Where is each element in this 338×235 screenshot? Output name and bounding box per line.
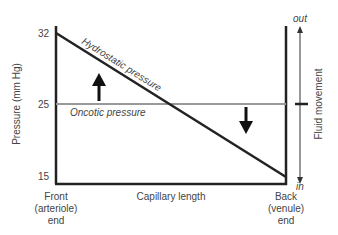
fluid-out-label: out [293,13,308,24]
back-label-line1: Back [275,191,298,202]
front-label-line1: Front [44,191,68,202]
back-label-line2: (venule) [268,203,304,214]
fluid-in-arrow-icon [239,107,253,134]
hydrostatic-pressure-label: Hydrostatic pressure [80,35,164,93]
oncotic-pressure-label: Oncotic pressure [70,107,146,118]
y-axis-label: Pressure (mm Hg) [11,63,22,145]
fluid-in-label: in [296,181,304,192]
y-tick-32: 32 [38,28,50,39]
front-label-line2: (arteriole) [35,203,78,214]
capillary-pressure-diagram: 32 25 15 Pressure (mm Hg) Hydrostatic pr… [0,0,338,235]
front-label-line3: end [48,215,65,226]
back-label-line3: end [278,215,295,226]
y-tick-15: 15 [38,171,50,182]
y-tick-25: 25 [38,99,50,110]
fluid-movement-axis [295,26,308,184]
x-axis-label: Capillary length [137,191,206,202]
fluid-movement-label: Fluid movement [313,68,324,139]
fluid-out-arrow-icon [92,73,106,101]
